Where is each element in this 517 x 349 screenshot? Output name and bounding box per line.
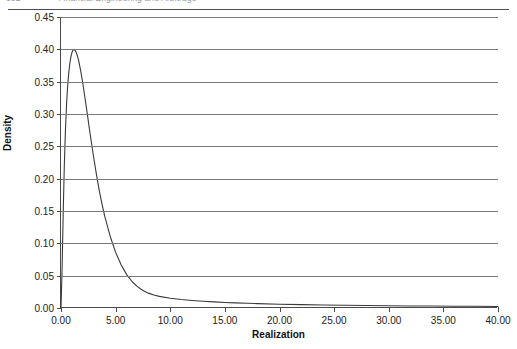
gridline-horizontal [61, 146, 498, 147]
header-divider [8, 9, 509, 10]
x-axis-tick [280, 307, 281, 312]
gridline-horizontal [61, 17, 498, 18]
y-axis-tick-label: 0.15 [35, 206, 54, 217]
gridline-horizontal [61, 114, 498, 115]
y-axis-tick-label: 0.40 [35, 44, 54, 55]
x-axis-tick-label: 30.00 [376, 315, 401, 326]
y-axis-tick-label: 0.05 [35, 270, 54, 281]
plot-area: 0.000.050.100.150.200.250.300.350.400.45… [60, 17, 497, 308]
y-axis-tick-label: 0.00 [35, 303, 54, 314]
density-curve [61, 17, 498, 308]
y-axis-tick [57, 211, 61, 212]
gridline-horizontal [61, 211, 498, 212]
x-axis-tick [443, 307, 444, 312]
gridline-horizontal [61, 82, 498, 83]
running-head-page-number: 332 [6, 0, 20, 3]
x-axis-tick [498, 307, 499, 312]
x-axis-tick-label: 0.00 [51, 315, 70, 326]
x-axis-tick [389, 307, 390, 312]
y-axis-tick [57, 17, 61, 18]
y-axis-tick-label: 0.45 [35, 12, 54, 23]
x-axis-tick-label: 40.00 [485, 315, 510, 326]
x-axis-tick [225, 307, 226, 312]
x-axis-tick-label: 20.00 [267, 315, 292, 326]
y-axis-tick-label: 0.10 [35, 238, 54, 249]
density-chart-figure: 0.000.050.100.150.200.250.300.350.400.45… [0, 11, 517, 349]
gridline-horizontal [61, 49, 498, 50]
running-head-title: Financial Engineering and Arbitrage [58, 0, 196, 3]
gridline-horizontal [61, 276, 498, 277]
gridline-horizontal [61, 179, 498, 180]
x-axis-tick-label: 10.00 [158, 315, 183, 326]
y-axis-tick-label: 0.25 [35, 141, 54, 152]
x-axis-tick-label: 5.00 [106, 315, 125, 326]
y-axis-tick-label: 0.20 [35, 173, 54, 184]
y-axis-tick [57, 114, 61, 115]
y-axis-tick [57, 179, 61, 180]
y-axis-tick [57, 146, 61, 147]
gridline-horizontal [61, 243, 498, 244]
y-axis-tick-label: 0.30 [35, 109, 54, 120]
y-axis-tick [57, 49, 61, 50]
x-axis-tick-label: 25.00 [322, 315, 347, 326]
x-axis-tick-label: 35.00 [431, 315, 456, 326]
x-axis-tick-label: 15.00 [212, 315, 237, 326]
x-axis-title: Realization [60, 329, 497, 340]
x-axis-tick [116, 307, 117, 312]
y-axis-tick [57, 243, 61, 244]
y-axis-tick-label: 0.35 [35, 76, 54, 87]
y-axis-tick [57, 82, 61, 83]
y-axis-title: Density [2, 115, 13, 151]
y-axis-tick [57, 276, 61, 277]
x-axis-tick [334, 307, 335, 312]
x-axis-tick [61, 307, 62, 312]
x-axis-tick [170, 307, 171, 312]
